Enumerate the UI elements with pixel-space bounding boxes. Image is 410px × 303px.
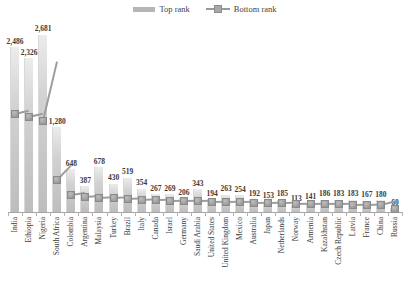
line-marker-australia[interactable]: [250, 199, 258, 207]
line-marker-malaysia[interactable]: [95, 194, 103, 202]
line-marker-india[interactable]: [11, 110, 19, 118]
bar-malaysia[interactable]: [94, 167, 103, 212]
line-marker-russia[interactable]: [391, 205, 399, 213]
axis-tick: [64, 212, 65, 216]
bar-value-label: 430: [108, 174, 119, 182]
category-label-text: Mexico: [236, 217, 244, 240]
bar-value-label: 2,486: [7, 38, 24, 46]
line-marker-israel[interactable]: [166, 197, 174, 205]
bar-column: 269: [163, 20, 177, 212]
axis-tick: [289, 212, 290, 216]
category-label-nigeria: Nigeria: [36, 217, 50, 301]
bar-value-label: 343: [192, 180, 203, 188]
axis-tick: [402, 212, 403, 216]
category-label-armenia: Armenia: [304, 217, 318, 301]
bar-value-label: 263: [220, 185, 231, 193]
x-axis-ticks: [8, 212, 402, 216]
line-marker-mexico[interactable]: [236, 198, 244, 206]
axis-tick: [374, 212, 375, 216]
line-marker-saudi-arabia[interactable]: [194, 197, 202, 205]
bar-column: 343: [191, 20, 205, 212]
line-marker-italy[interactable]: [138, 196, 146, 204]
line-marker-armenia[interactable]: [307, 200, 315, 208]
line-marker-canada[interactable]: [152, 196, 160, 204]
line-marker-united-states[interactable]: [208, 198, 216, 206]
bar-value-label: 192: [249, 190, 260, 198]
line-marker-kazakhstan[interactable]: [321, 200, 329, 208]
category-label-text: Argentina: [82, 217, 90, 247]
axis-tick: [149, 212, 150, 216]
bar-column: 153: [261, 20, 275, 212]
bar-ethiopia[interactable]: [24, 58, 33, 212]
line-marker-netherlands[interactable]: [278, 199, 286, 207]
bar-value-label: 167: [361, 191, 372, 199]
category-label-france: France: [360, 217, 374, 301]
axis-tick: [219, 212, 220, 216]
axis-tick: [360, 212, 361, 216]
bar-column: 194: [205, 20, 219, 212]
category-label-text: Australia: [251, 217, 259, 245]
bar-south-africa[interactable]: [52, 127, 61, 212]
axis-tick: [177, 212, 178, 216]
bar-value-label: 269: [164, 185, 175, 193]
axis-tick: [388, 212, 389, 216]
category-label-text: China: [377, 217, 385, 235]
plot-area: 2,4862,3262,6811,28064838767843051935426…: [8, 20, 402, 212]
legend-entry-top-rank[interactable]: Top rank: [133, 5, 189, 14]
bar-column: 141: [304, 20, 318, 212]
line-marker-colombia[interactable]: [67, 191, 75, 199]
category-label-text: Czech Republic: [335, 217, 343, 265]
bar-column: 185: [275, 20, 289, 212]
bar-column: 167: [360, 20, 374, 212]
category-label-latvia: Latvia: [346, 217, 360, 301]
line-marker-norway[interactable]: [292, 200, 300, 208]
bar-value-label: 387: [80, 177, 91, 185]
category-label-text: Nigeria: [39, 217, 47, 240]
category-label-norway: Norway: [289, 217, 303, 301]
line-marker-united-kingdom[interactable]: [222, 198, 230, 206]
line-marker-brazil[interactable]: [124, 195, 132, 203]
line-square-marker-icon: [206, 5, 230, 13]
bar-column: 206: [177, 20, 191, 212]
category-label-text: France: [363, 217, 371, 237]
axis-tick: [247, 212, 248, 216]
line-marker-latvia[interactable]: [349, 201, 357, 209]
axis-tick: [205, 212, 206, 216]
bar-value-label: 183: [347, 190, 358, 198]
line-marker-japan[interactable]: [264, 199, 272, 207]
category-label-south-africa: South Africa: [50, 217, 64, 301]
bar-column: 519: [121, 20, 135, 212]
bar-column: 430: [107, 20, 121, 212]
line-marker-turkey[interactable]: [110, 194, 118, 202]
category-label-text: Armenia: [307, 217, 315, 243]
legend-label-top-rank: Top rank: [159, 5, 189, 14]
line-marker-china[interactable]: [377, 201, 385, 209]
axis-tick: [36, 212, 37, 216]
legend-entry-bottom-rank[interactable]: Bottom rank: [206, 5, 277, 14]
category-label-czech-republic: Czech Republic: [332, 217, 346, 301]
axis-tick: [275, 212, 276, 216]
category-label-text: Russia: [391, 217, 399, 237]
category-label-italy: Italy: [135, 217, 149, 301]
bar-value-label: 2,681: [35, 25, 52, 33]
bar-value-label: 678: [94, 158, 105, 166]
bar-column: 354: [135, 20, 149, 212]
line-marker-south-africa[interactable]: [53, 176, 61, 184]
category-label-text: Israel: [166, 217, 174, 234]
line-marker-ethiopia[interactable]: [25, 113, 33, 121]
bar-column: 263: [219, 20, 233, 212]
category-label-text: Turkey: [110, 217, 118, 238]
category-label-text: Ethiopia: [25, 217, 33, 242]
line-marker-nigeria[interactable]: [39, 117, 47, 125]
line-marker-czech-republic[interactable]: [335, 200, 343, 208]
bar-column: 648: [64, 20, 78, 212]
category-label-kazakhstan: Kazakhstan: [318, 217, 332, 301]
line-marker-argentina[interactable]: [81, 193, 89, 201]
line-marker-germany[interactable]: [180, 197, 188, 205]
category-label-text: Netherlands: [279, 217, 287, 253]
bar-india[interactable]: [10, 47, 19, 212]
category-label-canada: Canada: [149, 217, 163, 301]
category-label-netherlands: Netherlands: [275, 217, 289, 301]
line-marker-france[interactable]: [363, 201, 371, 209]
axis-tick: [135, 212, 136, 216]
